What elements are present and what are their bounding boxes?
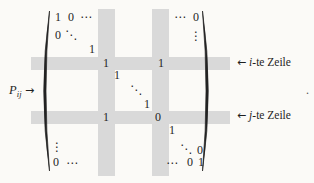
matrix-entry: 0: [155, 111, 161, 123]
matrix-entry: 0: [193, 11, 199, 23]
row-label-j: ← j-te Zeile: [237, 110, 291, 122]
matrix-name-label: Pij →: [9, 84, 34, 98]
matrix-entry: 1: [198, 156, 204, 168]
matrix-entry: ⋯: [174, 11, 186, 23]
left-arrow-icon: ←: [237, 109, 246, 122]
matrix-symbol: P: [9, 83, 17, 97]
matrix-entry: 1: [169, 124, 175, 136]
right-arrow-icon: →: [25, 84, 34, 97]
matrix-entry: 0: [53, 156, 59, 168]
matrix-entry: 1: [89, 43, 95, 55]
matrix-entry: ⋯: [166, 157, 178, 169]
matrix-entry: 1: [103, 57, 109, 69]
matrix-subscript: ij: [17, 89, 22, 99]
matrix-entry: 1: [144, 98, 150, 110]
figure-permutation-matrix: 1 0 ⋯ ⋯ 0 0 ⋱ ⋮ 1 1 1 1 ⋱ 1 1 0 1 ⋮ ⋱ 0 …: [0, 0, 314, 183]
row-suffix-i: -te Zeile: [252, 56, 291, 68]
matrix-entry: ⋯: [80, 11, 92, 23]
matrix-entry: ⋯: [66, 157, 78, 169]
matrix-entry: ⋮: [51, 141, 63, 153]
matrix-entry: 0: [68, 11, 74, 23]
matrix-entry: 1: [103, 111, 109, 123]
matrix-entry: 1: [114, 69, 120, 81]
left-paren: [44, 11, 50, 171]
matrix-entry: ⋱: [65, 29, 77, 41]
right-paren: [203, 11, 209, 171]
matrix-entry: ⋱: [180, 143, 192, 155]
matrix-entry: ⋱: [130, 84, 142, 96]
matrix-entry: ⋮: [190, 30, 202, 42]
row-suffix-j: -te Zeile: [252, 109, 291, 121]
matrix-entry: 1: [158, 57, 164, 69]
matrix-entry: 0: [187, 156, 193, 168]
matrix-parentheses: [0, 0, 314, 183]
row-label-i: ← i-te Zeile: [237, 57, 291, 69]
matrix-entry: 1: [55, 11, 61, 23]
left-arrow-icon: ←: [237, 56, 246, 69]
sentence-period: .: [306, 83, 309, 98]
matrix-entry: 0: [55, 29, 61, 41]
